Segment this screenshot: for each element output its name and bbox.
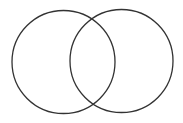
- left-circle: [12, 11, 115, 114]
- venn-diagram: [0, 0, 183, 123]
- right-circle: [70, 10, 173, 113]
